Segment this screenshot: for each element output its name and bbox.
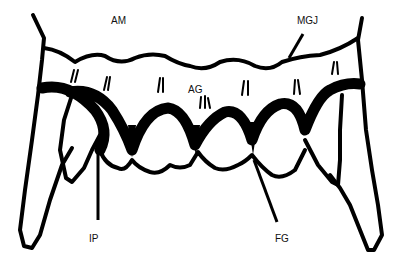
label-alveolar-mucosa: AM <box>111 16 126 26</box>
label-interdental-papilla: IP <box>89 234 98 244</box>
gingiva-diagram <box>0 0 406 265</box>
label-attached-gingiva: AG <box>188 85 202 95</box>
label-mucogingival-junction: MGJ <box>297 16 318 26</box>
label-free-gingiva: FG <box>275 234 289 244</box>
right-outer-outline <box>330 18 382 250</box>
mucogingival-line <box>44 38 358 68</box>
mgj-leader-line <box>289 34 303 58</box>
